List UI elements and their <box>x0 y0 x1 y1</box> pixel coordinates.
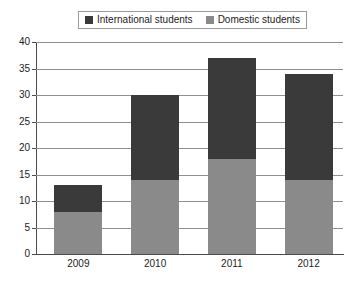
y-axis-tick-label: 5 <box>24 223 30 233</box>
stacked-bar-chart: International students Domestic students… <box>0 0 358 289</box>
y-axis-tick <box>32 95 36 96</box>
legend-swatch-international-icon <box>85 16 93 24</box>
y-axis-tick-label: 25 <box>19 117 30 127</box>
legend-item-international: International students <box>85 15 193 25</box>
y-axis-tick-label: 0 <box>24 249 30 259</box>
y-axis-tick <box>32 175 36 176</box>
y-axis-tick <box>32 201 36 202</box>
legend-item-domestic: Domestic students <box>206 15 300 25</box>
x-axis-tick-label: 2010 <box>131 258 179 269</box>
y-axis-tick <box>32 228 36 229</box>
y-axis-tick <box>32 148 36 149</box>
bar-segment-international[interactable] <box>131 95 179 180</box>
legend-swatch-domestic-icon <box>206 16 214 24</box>
y-axis-tick-label: 10 <box>19 196 30 206</box>
bar-segment-domestic[interactable] <box>131 180 179 254</box>
legend-label-domestic: Domestic students <box>218 15 300 25</box>
bar-segment-international[interactable] <box>208 58 256 159</box>
y-axis-tick <box>32 69 36 70</box>
bar-segment-international[interactable] <box>54 185 102 212</box>
y-axis-tick-label: 35 <box>19 64 30 74</box>
bar-segment-domestic[interactable] <box>285 180 333 254</box>
x-axis-line <box>36 254 344 255</box>
x-axis-tick-label: 2012 <box>285 258 333 269</box>
legend-label-international: International students <box>97 15 193 25</box>
y-axis-tick <box>32 254 36 255</box>
bar-group[interactable] <box>54 42 102 254</box>
x-axis-tick-label: 2011 <box>208 258 256 269</box>
y-axis-tick-label: 30 <box>19 90 30 100</box>
bar-segment-international[interactable] <box>285 74 333 180</box>
y-axis-tick-label: 20 <box>19 143 30 153</box>
bar-group[interactable] <box>285 42 333 254</box>
bar-group[interactable] <box>131 42 179 254</box>
x-axis-tick-label: 2009 <box>54 258 102 269</box>
y-axis-tick <box>32 42 36 43</box>
bar-segment-domestic[interactable] <box>54 212 102 254</box>
chart-legend: International students Domestic students <box>78 11 307 29</box>
bar-group[interactable] <box>208 42 256 254</box>
y-axis-tick-label: 40 <box>19 37 30 47</box>
y-axis-tick <box>32 122 36 123</box>
y-axis-tick-label: 15 <box>19 170 30 180</box>
bar-segment-domestic[interactable] <box>208 159 256 254</box>
plot-area: 0510152025303540 <box>36 42 343 254</box>
